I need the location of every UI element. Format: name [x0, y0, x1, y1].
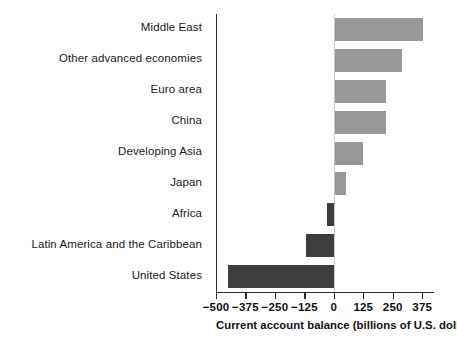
x-axis-tick-label: 0: [331, 301, 338, 313]
bar: [334, 18, 424, 41]
x-axis-tick: [245, 293, 246, 299]
x-axis-tick: [393, 293, 394, 299]
zero-reference-line: [334, 14, 335, 292]
bar: [228, 265, 334, 288]
bar-series: [0, 0, 457, 347]
x-axis-line: [216, 292, 434, 293]
bar: [334, 111, 386, 134]
bar: [334, 142, 363, 165]
x-axis-tick-label: −125: [291, 301, 318, 313]
x-axis-tick-label: 375: [412, 301, 432, 313]
x-axis-tick-label: −375: [232, 301, 259, 313]
x-axis-tick: [275, 293, 276, 299]
x-axis-tick: [363, 293, 364, 299]
bar: [327, 203, 334, 226]
x-axis-tick-label: 250: [383, 301, 403, 313]
plot-area: Middle EastOther advanced economiesEuro …: [0, 0, 457, 347]
bar: [334, 49, 402, 72]
x-axis-tick: [304, 293, 305, 299]
bar: [306, 234, 334, 257]
bar: [334, 80, 386, 103]
x-axis-title: Current account balance (billions of U.S…: [216, 319, 457, 331]
x-axis-tick-label: 125: [353, 301, 373, 313]
x-axis-tick: [216, 293, 217, 299]
current-account-balance-chart: Middle EastOther advanced economiesEuro …: [0, 0, 457, 347]
x-axis-tick: [334, 293, 335, 299]
x-axis-tick: [422, 293, 423, 299]
x-axis-tick-label: −250: [262, 301, 289, 313]
y-axis-line: [216, 14, 217, 293]
bar: [334, 172, 346, 195]
x-axis-tick-label: −500: [203, 301, 230, 313]
